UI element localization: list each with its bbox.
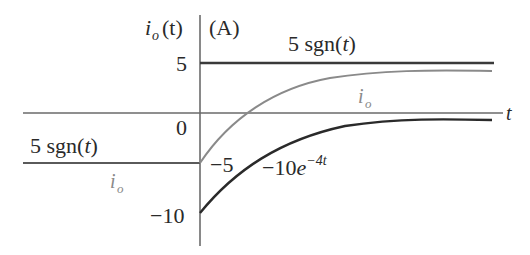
io-response-curve [200, 71, 492, 163]
sgn-label-negative: 5 sgn(t) [30, 133, 98, 158]
minus-five-annotation: −5 [210, 152, 233, 177]
x-axis-label: t [506, 102, 512, 124]
io-label-positive-sub: o [365, 96, 372, 111]
exponential-curve [200, 119, 492, 213]
exponential-label: −10e−4t [262, 153, 328, 180]
y-tick-minus10: −10 [150, 203, 184, 228]
y-axis-unit: (A) [209, 15, 240, 40]
y-axis-label-sub: o [152, 28, 159, 43]
y-tick-5: 5 [176, 51, 187, 76]
io-label-positive: i [358, 85, 364, 107]
y-tick-0: 0 [176, 115, 187, 140]
y-axis-label-arg: (t) [162, 15, 183, 40]
sgn-label-positive: 5 sgn(t) [288, 31, 356, 56]
io-label-negative: i [110, 170, 116, 192]
io-label-negative-sub: o [117, 181, 124, 196]
y-axis-label-main: i [145, 15, 151, 40]
step-response-chart: i o (t) (A) 5 0 −10 t 5 sgn(t) 5 sgn(t) … [0, 0, 530, 255]
